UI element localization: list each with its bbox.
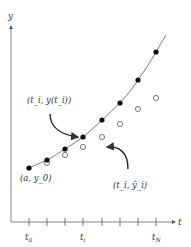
exact-point xyxy=(135,77,140,82)
x-axis-label: t xyxy=(178,217,182,227)
tick-label-tN: tN xyxy=(152,232,161,243)
y-axis-label: y xyxy=(7,11,14,21)
approx-point xyxy=(153,95,158,100)
approx-point xyxy=(80,144,85,149)
exact-point-label: (t_i, y(t_i)) xyxy=(27,95,71,106)
approx-point xyxy=(99,134,104,139)
approx-point xyxy=(135,106,140,111)
approx-point xyxy=(117,121,122,126)
approx-point-label: (t_i, ŷ_i) xyxy=(113,180,147,191)
exact-point xyxy=(80,134,85,139)
exact-point xyxy=(117,100,122,105)
diagram: y t t0 ti tN xyxy=(0,0,191,247)
tick-label-ti: ti xyxy=(80,232,85,243)
approx-point-arrow xyxy=(107,147,128,169)
approximation-points xyxy=(44,95,158,165)
approx-point xyxy=(62,152,67,157)
initial-point-label: (a, y_0) xyxy=(20,173,52,184)
exact-point xyxy=(99,117,104,122)
tick-label-t0: t0 xyxy=(25,232,32,243)
exact-point-arrow xyxy=(50,114,78,137)
exact-point xyxy=(153,49,158,54)
exact-point xyxy=(26,165,31,170)
exact-point xyxy=(44,157,49,162)
exact-point xyxy=(62,146,67,151)
